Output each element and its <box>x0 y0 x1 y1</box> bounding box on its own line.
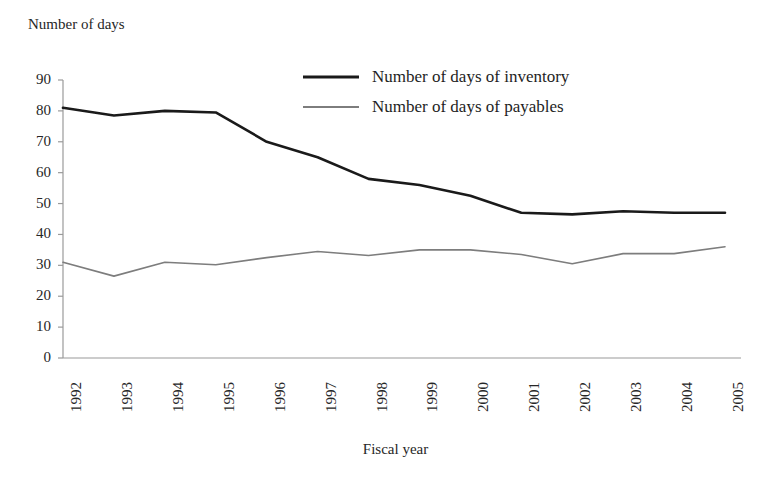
x-tick-label: 1997 <box>324 382 339 412</box>
y-tick-label: 80 <box>13 103 51 118</box>
legend-line-icon-payables <box>300 104 362 110</box>
y-tick-label: 60 <box>13 165 51 180</box>
x-tick-label: 2001 <box>527 382 542 412</box>
x-tick-label: 1993 <box>120 382 135 412</box>
x-tick-label: 1999 <box>425 382 440 412</box>
legend-label-inventory: Number of days of inventory <box>362 67 569 87</box>
x-tick-label: 2003 <box>629 382 644 412</box>
x-tick-label: 2005 <box>731 382 746 412</box>
chart-legend: Number of days of inventory Number of da… <box>300 62 700 122</box>
y-tick-label: 70 <box>13 134 51 149</box>
legend-line-icon-inventory <box>300 74 362 80</box>
legend-item-payables: Number of days of payables <box>300 92 700 122</box>
x-tick-label: 1992 <box>69 382 84 412</box>
legend-label-payables: Number of days of payables <box>362 97 564 117</box>
y-tick-label: 90 <box>13 72 51 87</box>
series-line <box>63 108 725 215</box>
x-tick-label: 1998 <box>375 382 390 412</box>
x-axis-title-text: Fiscal year <box>341 441 428 458</box>
y-tick-label: 0 <box>13 350 51 365</box>
legend-item-inventory: Number of days of inventory <box>300 62 700 92</box>
x-tick-label: 1995 <box>222 382 237 412</box>
y-tick-label: 50 <box>13 196 51 211</box>
x-tick-label: 2002 <box>578 382 593 412</box>
x-axis-title: Fiscal year <box>0 441 769 458</box>
y-tick-marks <box>58 80 63 358</box>
y-tick-label: 30 <box>13 257 51 272</box>
y-tick-label: 40 <box>13 226 51 241</box>
x-tick-label: 1994 <box>171 382 186 412</box>
y-tick-label: 10 <box>13 319 51 334</box>
y-tick-label: 20 <box>13 288 51 303</box>
chart-figure: Number of days 0102030405060708090 19921… <box>0 0 769 483</box>
x-tick-label: 2004 <box>680 382 695 412</box>
x-tick-label: 2000 <box>476 382 491 412</box>
series-line <box>63 247 725 276</box>
series-lines <box>63 108 725 276</box>
x-tick-label: 1996 <box>273 382 288 412</box>
